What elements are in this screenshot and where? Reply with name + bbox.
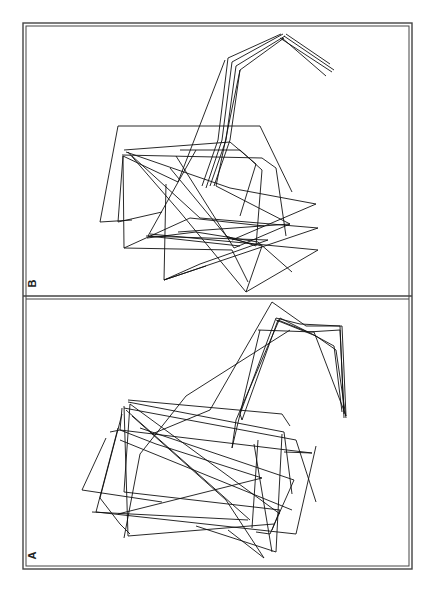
trajectory-line xyxy=(276,320,346,418)
trajectory-line xyxy=(92,512,248,520)
panel-b-label: B xyxy=(27,280,38,288)
panel-b-trajectories xyxy=(100,34,334,292)
trajectory-line xyxy=(100,126,132,222)
trajectory-line xyxy=(180,150,262,246)
trajectory-line xyxy=(286,34,330,64)
trajectory-line xyxy=(110,430,262,514)
panel-a-label: A xyxy=(27,552,38,560)
trajectory-line xyxy=(123,156,264,248)
trajectory-line xyxy=(124,248,248,282)
trajectory-line xyxy=(132,156,318,280)
figure-canvas xyxy=(0,0,434,593)
trajectory-line xyxy=(82,438,162,502)
trajectory-line xyxy=(118,60,225,222)
panel-a-trajectories xyxy=(82,302,346,558)
trajectory-line xyxy=(152,302,272,434)
trajectory-line xyxy=(130,404,280,514)
figure: B A xyxy=(0,0,434,593)
trajectory-line xyxy=(284,36,334,70)
trajectory-line xyxy=(252,440,258,528)
trajectory-line xyxy=(280,38,332,72)
trajectory-line xyxy=(176,156,290,248)
trajectory-line xyxy=(232,318,280,448)
trajectory-line xyxy=(132,416,264,558)
trajectory-line xyxy=(118,126,292,192)
trajectory-line xyxy=(164,184,206,280)
trajectory-line xyxy=(258,330,346,416)
trajectory-line xyxy=(126,410,250,520)
